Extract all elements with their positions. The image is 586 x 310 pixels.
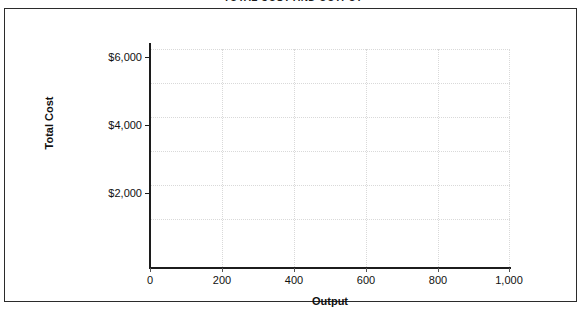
figure-frame: $6,000 $4,000 $2,000 0 200 400 600 800 1… [4,8,577,302]
plot-area [150,49,510,267]
x-axis-tick [294,268,295,272]
x-axis-tick-label: 400 [285,274,303,286]
gridline-horizontal [150,83,510,84]
y-axis-tick-labels: $6,000 $4,000 $2,000 [80,9,142,310]
gridline-horizontal [150,117,510,118]
x-axis-tick [438,268,439,272]
x-axis-title: Output [150,295,510,307]
gridline-horizontal [150,151,510,152]
gridline-horizontal [150,219,510,220]
gridline-vertical [438,49,439,267]
gridline-vertical [294,49,295,267]
y-axis-title: Total Cost [43,73,55,173]
x-axis-tick-label: 0 [147,274,153,286]
chart-title: TOTAL COST AND OUTPUT [0,0,586,4]
x-axis-tick-label: 600 [357,274,375,286]
x-axis-line [149,267,511,269]
y-axis-tick [145,125,150,126]
y-axis-tick-label: $2,000 [82,187,142,199]
x-axis-tick [366,268,367,272]
gridline-vertical [222,49,223,267]
gridline-vertical [366,49,367,267]
y-axis-tick [145,193,150,194]
gridline-horizontal [150,185,510,186]
y-axis-line [149,43,151,269]
x-axis-tick [509,268,510,272]
x-axis-tick [150,268,151,272]
y-axis-tick-label: $4,000 [82,119,142,131]
y-axis-tick-label: $6,000 [82,51,142,63]
x-axis-tick-label: 1,000 [495,274,523,286]
x-axis-tick-label: 800 [429,274,447,286]
gridline-vertical [509,49,510,267]
y-axis-tick [145,57,150,58]
x-axis-tick [222,268,223,272]
x-axis-tick-label: 200 [213,274,231,286]
gridline-horizontal [150,49,510,50]
